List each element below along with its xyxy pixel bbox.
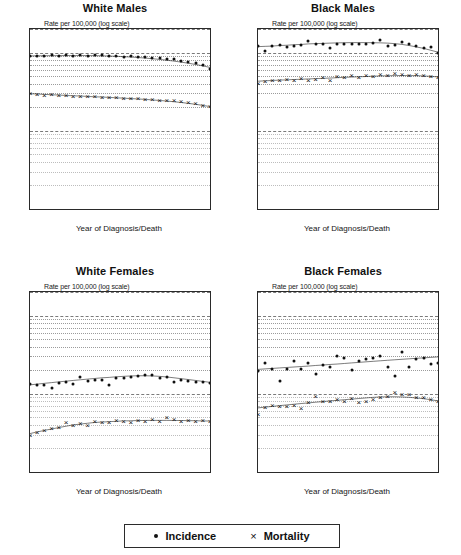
- x-tick-mark: [124, 472, 125, 473]
- x-tick-mark: [210, 472, 211, 473]
- incidence-point: [336, 43, 339, 46]
- incidence-point: [151, 373, 154, 376]
- x-tick-mark: [116, 472, 117, 473]
- mortality-point: [84, 93, 91, 100]
- mortality-point: [327, 76, 334, 83]
- x-tick-mark: [431, 472, 432, 473]
- x-tick-mark: [30, 209, 31, 210]
- mortality-point: [406, 71, 413, 78]
- mortality-point: [384, 72, 391, 79]
- x-tick-mark: [203, 209, 204, 210]
- mortality-point: [142, 95, 149, 102]
- mortality-point: [269, 76, 276, 83]
- mortality-point: [99, 94, 106, 101]
- mortality-point: [70, 421, 77, 428]
- chart-grid: White Males Rate per 100,000 (log scale)…: [0, 0, 461, 518]
- y-axis-note: Rate per 100,000 (log scale): [272, 20, 358, 27]
- y-axis-note: Rate per 100,000 (log scale): [44, 20, 130, 27]
- x-tick-mark: [188, 209, 189, 210]
- gridline: [30, 472, 210, 473]
- x-tick-mark: [95, 209, 96, 210]
- x-tick-mark: [272, 472, 273, 473]
- mortality-point: [113, 94, 120, 101]
- x-tick-mark: [280, 209, 281, 210]
- incidence-point: [86, 54, 89, 57]
- y-tick-mark: [257, 209, 258, 210]
- incidence-point: [129, 376, 132, 379]
- mortality-point: [199, 101, 206, 108]
- incidence-point: [293, 360, 296, 363]
- legend-item-incidence: Incidence: [154, 530, 216, 542]
- incidence-point: [108, 384, 111, 387]
- mortality-point: [413, 71, 420, 78]
- incidence-point: [173, 380, 176, 383]
- incidence-point: [57, 381, 60, 384]
- mortality-point: [48, 91, 55, 98]
- incidence-point: [137, 55, 140, 58]
- trend-line-layer: [258, 29, 438, 209]
- x-tick-mark: [409, 472, 410, 473]
- mortality-point: [70, 92, 77, 99]
- x-tick-mark: [409, 209, 410, 210]
- mortality-point: [363, 397, 370, 404]
- incidence-point: [437, 51, 440, 54]
- x-tick-mark: [174, 209, 175, 210]
- incidence-point: [307, 361, 310, 364]
- x-tick-mark: [431, 209, 432, 210]
- x-tick-mark: [109, 472, 110, 473]
- x-tick-mark: [59, 209, 60, 210]
- incidence-point: [36, 54, 39, 57]
- x-tick-mark: [167, 472, 168, 473]
- incidence-point: [72, 55, 75, 58]
- mortality-point: [106, 418, 113, 425]
- x-tick-mark: [316, 472, 317, 473]
- incidence-point: [393, 43, 396, 46]
- incidence-point: [271, 45, 274, 48]
- mortality-point: [207, 417, 212, 424]
- mortality-point: [377, 394, 384, 401]
- y-tick-mark: [29, 472, 30, 473]
- mortality-point: [127, 95, 134, 102]
- panel-white-males: White Males Rate per 100,000 (log scale)…: [0, 2, 230, 252]
- mortality-point: [34, 91, 41, 98]
- mortality-point: [63, 92, 70, 99]
- incidence-point: [86, 380, 89, 383]
- legend-label-mortality: Mortality: [264, 530, 310, 542]
- mortality-point: [341, 398, 348, 405]
- mortality-point: [41, 91, 48, 98]
- mortality-point: [99, 419, 106, 426]
- x-tick-mark: [323, 472, 324, 473]
- x-tick-mark: [323, 209, 324, 210]
- incidence-point: [271, 367, 274, 370]
- x-tick-mark: [145, 209, 146, 210]
- x-tick-mark: [124, 209, 125, 210]
- x-tick-mark: [52, 209, 53, 210]
- x-tick-mark: [373, 472, 374, 473]
- panel-title: Black Females: [228, 265, 458, 277]
- x-marker-icon: ×: [250, 531, 256, 542]
- incidence-point: [329, 365, 332, 368]
- incidence-point: [79, 54, 82, 57]
- mortality-point: [276, 402, 283, 409]
- incidence-point: [343, 356, 346, 359]
- incidence-point: [285, 367, 288, 370]
- mortality-point: [305, 399, 312, 406]
- mortality-point: [391, 389, 398, 396]
- panel-title: White Females: [0, 265, 230, 277]
- mortality-point: [348, 395, 355, 402]
- mortality-point: [91, 93, 98, 100]
- mortality-point: [298, 405, 305, 412]
- incidence-point: [350, 42, 353, 45]
- mortality-point: [135, 95, 142, 102]
- mortality-point: [262, 78, 269, 85]
- mortality-point: [291, 401, 298, 408]
- incidence-point: [165, 375, 168, 378]
- x-tick-mark: [258, 209, 259, 210]
- incidence-point: [278, 380, 281, 383]
- mortality-point: [171, 97, 178, 104]
- incidence-point: [93, 378, 96, 381]
- x-tick-mark: [131, 472, 132, 473]
- panel-black-males: Black Males Rate per 100,000 (log scale)…: [228, 2, 458, 252]
- x-tick-mark: [359, 209, 360, 210]
- x-tick-mark: [402, 209, 403, 210]
